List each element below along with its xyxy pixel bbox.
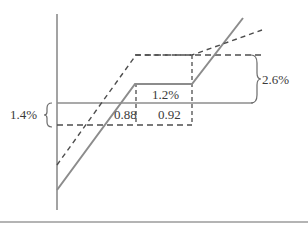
- lower-shift-brace: [44, 103, 52, 127]
- tick-label-right: 0.92: [158, 108, 181, 121]
- tick-label-left: 0.88: [114, 108, 137, 121]
- bottom-divider: [0, 221, 308, 223]
- inner-band-label: 1.2%: [152, 88, 179, 101]
- payoff-diagram: [0, 0, 308, 230]
- solid-payoff-line: [57, 18, 243, 190]
- lower-shift-label: 1.4%: [10, 108, 37, 121]
- figure-container: 2.6% 1.4% 1.2% 0.88 0.92: [0, 0, 308, 230]
- vertical-shift-brace: [251, 55, 261, 103]
- vertical-shift-label: 2.6%: [262, 73, 289, 86]
